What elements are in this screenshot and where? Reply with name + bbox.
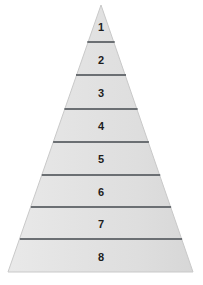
pyramid-divider-5 (42, 174, 160, 176)
pyramid-outline (8, 5, 193, 272)
pyramid-tier-label-5: 5 (98, 154, 104, 165)
pyramid-tier-label-7: 7 (98, 219, 104, 230)
pyramid-tier-label-8: 8 (98, 252, 104, 263)
pyramid-divider-2 (76, 74, 126, 76)
pyramid-divider-1 (87, 41, 114, 43)
pyramid-tier-label-3: 3 (98, 88, 104, 99)
pyramid-divider-4 (53, 141, 149, 143)
pyramid-divider-3 (64, 108, 137, 110)
pyramid-body (8, 5, 193, 272)
pyramid-divider-7 (20, 238, 182, 240)
pyramid-tier-label-1: 1 (98, 22, 104, 33)
pyramid-tier-label-2: 2 (98, 55, 104, 66)
pyramid-graphic (0, 0, 203, 285)
pyramid-tier-label-4: 4 (98, 121, 104, 132)
pyramid-tier-label-6: 6 (98, 187, 104, 198)
pyramid-divider-6 (31, 206, 171, 208)
pyramid-diagram: 12345678 (0, 0, 203, 285)
